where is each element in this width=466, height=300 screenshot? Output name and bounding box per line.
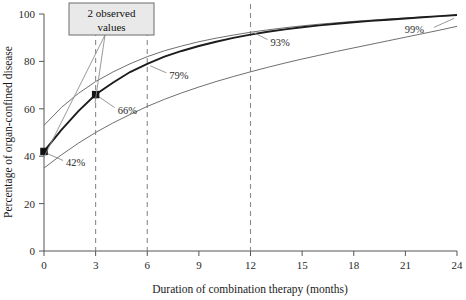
curve-value-label: 42%	[66, 157, 86, 168]
reference-lines	[96, 4, 251, 251]
value-label-leader	[99, 97, 115, 108]
observed-point-marker	[41, 148, 47, 154]
x-tick-label: 12	[245, 259, 256, 271]
curve-value-label: 99%	[405, 24, 425, 35]
y-axis-ticks: 020406080100	[19, 8, 45, 257]
value-label-leader	[150, 66, 166, 73]
x-tick-label: 0	[41, 259, 47, 271]
x-axis-ticks: 03691215182124	[41, 251, 463, 271]
curve-value-labels: 42%66%79%93%99%	[66, 24, 424, 168]
x-tick-label: 21	[400, 259, 411, 271]
y-tick-label: 100	[19, 8, 36, 20]
x-tick-label: 15	[297, 259, 309, 271]
chart-canvas: 020406080100 03691215182124 42%66%79%93%…	[0, 0, 466, 300]
y-tick-label: 80	[24, 55, 36, 67]
x-tick-label: 24	[452, 259, 464, 271]
x-tick-label: 6	[145, 259, 151, 271]
curve-group	[44, 15, 457, 168]
y-tick-label: 40	[24, 150, 36, 162]
y-tick-label: 0	[30, 245, 36, 257]
callout-line-1: 2 observed	[88, 7, 136, 19]
curve-value-label: 79%	[169, 70, 189, 81]
x-tick-label: 9	[196, 259, 202, 271]
callout-line-2: values	[97, 21, 125, 33]
x-tick-label: 18	[348, 259, 360, 271]
curve-value-label: 93%	[271, 37, 291, 48]
y-axis-title: Percentage of organ-confined disease	[2, 46, 15, 218]
y-tick-label: 20	[24, 198, 36, 210]
value-label-leader	[434, 18, 454, 27]
x-axis-title: Duration of combination therapy (months)	[152, 283, 348, 296]
chart-figure: 020406080100 03691215182124 42%66%79%93%…	[0, 0, 466, 300]
curve-value-label: 66%	[118, 105, 138, 116]
y-tick-label: 60	[24, 103, 36, 115]
x-tick-label: 3	[93, 259, 99, 271]
